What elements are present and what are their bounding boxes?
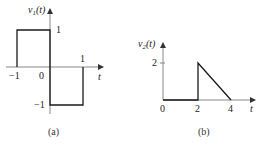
figure-b-tick-y-2: 2 <box>152 57 157 68</box>
figure-a-tick-x-0: 0 <box>39 70 44 81</box>
figure-b-caption: (b) <box>198 126 210 138</box>
figure-a-caption: (a) <box>48 126 59 138</box>
figure-a-tick-x-1: 1 <box>80 53 85 64</box>
figure-a-y-label: v1(t) <box>28 4 46 17</box>
figure-b-y-label: v2(t) <box>138 38 156 51</box>
figure-b: v2(t) 2 0 2 4 t (b) <box>138 38 255 138</box>
figure-b-tick-x-0: 0 <box>160 103 165 114</box>
figure-a-tick-y-1: 1 <box>56 24 61 35</box>
figure-b-tick-x-4: 4 <box>228 103 233 114</box>
figure-a-tick-x-neg1: −1 <box>9 70 20 81</box>
figure-b-waveform <box>163 63 231 100</box>
figure-a-tick-y-neg1: −1 <box>34 99 45 110</box>
figure-b-x-label: t <box>250 103 253 114</box>
figure-a-x-label: t <box>98 71 101 82</box>
figure-b-tick-x-2: 2 <box>195 103 200 114</box>
figure-a: v1(t) 1 1 −1 0 −1 t (a) <box>6 4 103 138</box>
diagram-canvas: v1(t) 1 1 −1 0 −1 t (a) v2(t) 2 0 2 4 t … <box>0 0 258 148</box>
